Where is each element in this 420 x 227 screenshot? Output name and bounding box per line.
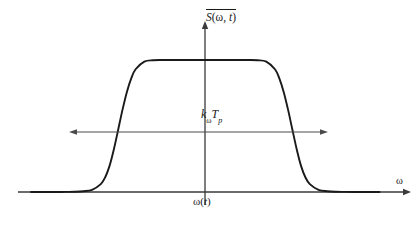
center-frequency-label: ω(t) <box>193 196 211 207</box>
width-subscript-p: p <box>218 116 222 125</box>
x-axis-arrowhead-icon <box>403 189 411 195</box>
x-axis-label: ω <box>396 176 403 187</box>
width-double-arrow <box>69 129 328 135</box>
width-arrow-right-head-icon <box>320 129 328 135</box>
y-axis-label: S(ω, t) <box>206 9 236 23</box>
y-axis-label-overbar: S(ω, t) <box>206 9 236 23</box>
width-subscript-omega: ω <box>206 116 211 125</box>
center-paren-close: ) <box>207 195 211 207</box>
width-annotation-label: kωTp <box>201 108 222 120</box>
width-arrow-left-head-icon <box>69 129 77 135</box>
figure-container: S(ω, t) ω kωTp ω(t) <box>0 0 420 227</box>
y-axis-paren-close: ) <box>232 11 236 23</box>
